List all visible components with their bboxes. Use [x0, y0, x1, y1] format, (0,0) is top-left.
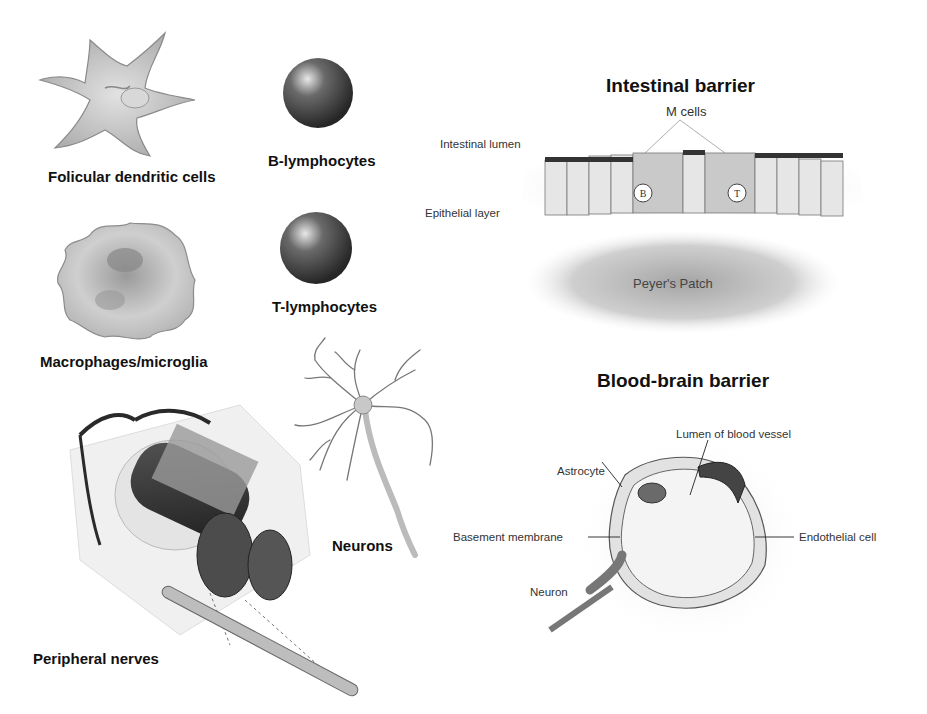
intestinal-barrier-title: Intestinal barrier [606, 75, 755, 97]
macrophage-microglia-illustration [50, 215, 200, 345]
label-peripheral-nerves: Peripheral nerves [33, 650, 159, 667]
label-b-lymphocytes: B-lymphocytes [268, 152, 376, 169]
label-t-lymphocytes: T-lymphocytes [272, 298, 377, 315]
t-cell-marker: T [734, 188, 740, 199]
follicular-dendritic-cell-illustration [35, 28, 235, 188]
label-basement-membrane: Basement membrane [453, 531, 563, 543]
blood-brain-barrier-title: Blood-brain barrier [597, 370, 769, 392]
label-lumen-of-blood-vessel: Lumen of blood vessel [676, 428, 791, 440]
label-macrophages-microglia: Macrophages/microglia [40, 353, 208, 370]
label-endothelial-cell: Endothelial cell [799, 531, 876, 543]
label-peyers-patch: Peyer's Patch [633, 276, 713, 291]
t-lymphocyte-illustration [278, 210, 358, 290]
label-intestinal-lumen: Intestinal lumen [440, 138, 521, 150]
label-astrocyte: Astrocyte [557, 465, 605, 477]
b-lymphocyte-illustration [280, 55, 360, 135]
label-follicular-dendritic-cells: Folicular dendritic cells [48, 168, 216, 185]
label-neuron: Neuron [530, 586, 568, 598]
label-epithelial-layer: Epithelial layer [425, 207, 500, 219]
b-cell-marker: B [640, 188, 647, 199]
